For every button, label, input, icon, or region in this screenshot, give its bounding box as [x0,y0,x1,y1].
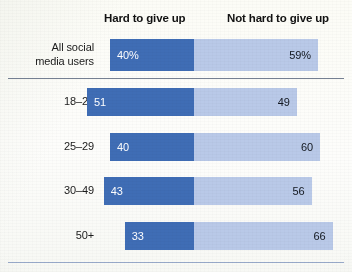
bar-segment-hard-to-give-up: 40 [110,133,194,161]
bar-segment-not-hard-to-give-up: 60 [194,133,320,161]
bar-value-not-hard-to-give-up: 59% [289,49,311,61]
bottom-rule [8,262,344,263]
bar-value-hard-to-give-up: 51 [94,96,106,108]
bar-segment-hard-to-give-up: 51 [87,88,194,116]
chart-container: Hard to give up Not hard to give up All … [0,0,352,272]
bar-value-hard-to-give-up: 33 [132,230,144,242]
row-category-label: 50+ [0,229,94,243]
bar-value-hard-to-give-up: 43 [111,185,123,197]
bar-value-hard-to-give-up: 40 [117,141,129,153]
bar-segment-hard-to-give-up: 43 [104,177,194,205]
bar-value-not-hard-to-give-up: 66 [314,230,326,242]
bar-value-hard-to-give-up: 40% [117,49,139,61]
row-category-label: 18–24 [0,95,94,109]
bar-value-not-hard-to-give-up: 56 [293,185,305,197]
bar-segment-hard-to-give-up: 33 [125,222,194,250]
bar-segment-hard-to-give-up: 40% [110,39,194,71]
bar-value-not-hard-to-give-up: 60 [301,141,313,153]
row-category-label: 30–49 [0,184,94,198]
row-category-label: All social media users [0,41,94,68]
bar-segment-not-hard-to-give-up: 49 [194,88,297,116]
bar-segment-not-hard-to-give-up: 59% [194,39,318,71]
chart-row: 50+3366 [0,222,352,250]
bar-value-not-hard-to-give-up: 49 [278,96,290,108]
chart-row: 18–245149 [0,88,352,116]
chart-row: All social media users40%59% [0,39,352,71]
chart-row: 25–294060 [0,133,352,161]
chart-rows: All social media users40%59%18–24514925–… [0,0,352,272]
bar-segment-not-hard-to-give-up: 56 [194,177,312,205]
bar-segment-not-hard-to-give-up: 66 [194,222,333,250]
chart-row: 30–494356 [0,177,352,205]
row-category-label: 25–29 [0,140,94,154]
